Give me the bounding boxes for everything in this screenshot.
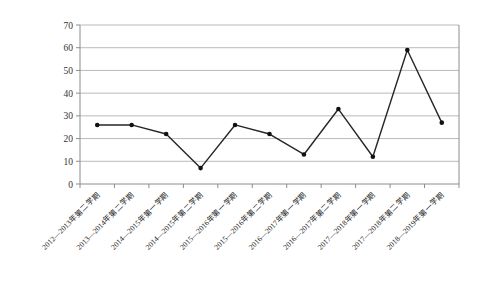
x-tick-label: 2016—2017年第二学期 bbox=[281, 189, 343, 251]
data-point bbox=[164, 132, 169, 137]
x-tick-label: 2012—2013年第二学期 bbox=[39, 189, 101, 251]
data-point bbox=[95, 123, 100, 128]
y-tick-label: 10 bbox=[64, 157, 74, 167]
data-point bbox=[129, 123, 134, 128]
data-line bbox=[97, 50, 442, 168]
y-tick-label: 60 bbox=[64, 43, 74, 53]
line-chart-canvas: 0102030405060702012—2013年第二学期2013—2014年第… bbox=[0, 0, 482, 286]
y-tick-label: 20 bbox=[64, 134, 74, 144]
data-point bbox=[439, 120, 444, 125]
y-tick-label: 30 bbox=[64, 111, 74, 121]
data-point bbox=[267, 132, 272, 137]
y-tick-label: 70 bbox=[64, 21, 74, 31]
x-tick-label: 2016—2017年第一学期 bbox=[246, 189, 308, 251]
x-tick-label: 2014—2015年第一学期 bbox=[108, 189, 170, 251]
x-tick-label: 2015—2016年第二学期 bbox=[212, 189, 274, 251]
data-point bbox=[198, 166, 203, 171]
y-tick-label: 0 bbox=[68, 180, 73, 190]
line-chart: 0102030405060702012—2013年第二学期2013—2014年第… bbox=[0, 0, 482, 286]
data-point bbox=[336, 107, 341, 112]
data-point bbox=[405, 48, 410, 53]
data-point bbox=[302, 152, 307, 157]
data-point bbox=[371, 154, 376, 159]
x-tick-label: 2014—2015年第二学期 bbox=[143, 189, 205, 251]
x-tick-label: 2018—2019年第一学期 bbox=[384, 189, 446, 251]
x-tick-label: 2013—2014年第二学期 bbox=[74, 189, 136, 251]
x-tick-label: 2015—2016年第一学期 bbox=[177, 189, 239, 251]
x-tick-label: 2017—2018年第二学期 bbox=[350, 189, 412, 251]
x-tick-label: 2017—2018年第一学期 bbox=[315, 189, 377, 251]
data-point bbox=[233, 123, 238, 128]
y-tick-label: 50 bbox=[64, 66, 74, 76]
y-tick-label: 40 bbox=[64, 89, 74, 99]
